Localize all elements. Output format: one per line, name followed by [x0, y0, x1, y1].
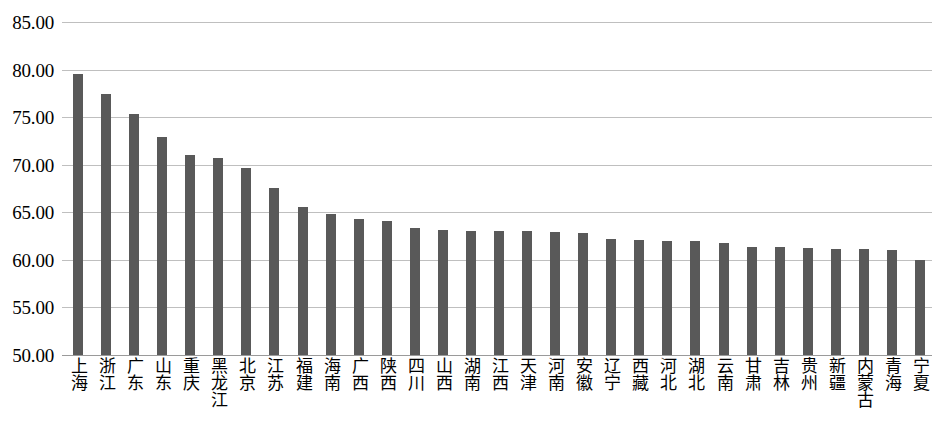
x-axis-tick-label: 宁夏 [907, 357, 933, 395]
x-axis-tick-text: 湖南 [462, 357, 479, 391]
x-axis-tick-label: 青海 [879, 357, 905, 395]
x-axis-tick-text: 陕西 [378, 357, 395, 391]
x-axis-tick-text: 河南 [547, 357, 564, 391]
bar[interactable] [606, 239, 616, 355]
x-axis-tick-text: 西藏 [631, 357, 648, 391]
x-axis-tick-text: 贵州 [799, 357, 816, 391]
x-axis-tick-text: 内蒙古 [855, 357, 872, 408]
x-axis-tick-text: 吉林 [771, 357, 788, 391]
bar[interactable] [831, 249, 841, 355]
x-axis-tick-label: 甘肃 [739, 357, 765, 395]
x-axis-tick-text: 青海 [883, 357, 900, 391]
x-axis-tick-text: 广西 [350, 357, 367, 391]
bar[interactable] [747, 247, 757, 355]
x-axis-tick-label: 海南 [318, 357, 344, 395]
x-axis-tick-label: 西藏 [626, 357, 652, 395]
x-axis-tick-text: 河北 [659, 357, 676, 391]
bar[interactable] [185, 155, 195, 355]
x-axis-tick-text: 重庆 [182, 357, 199, 391]
y-axis: 50.0055.0060.0065.0070.0075.0080.0085.00 [0, 0, 58, 431]
x-axis-tick-text: 海南 [322, 357, 339, 391]
bar[interactable] [494, 231, 504, 355]
x-axis-tick-text: 山西 [434, 357, 451, 391]
x-axis-tick-label: 陕西 [374, 357, 400, 395]
bar[interactable] [803, 248, 813, 356]
x-axis-tick-label: 江苏 [261, 357, 287, 395]
y-axis-tick-label: 65.00 [12, 203, 54, 222]
bars-layer [62, 22, 932, 355]
bar[interactable] [662, 241, 672, 355]
y-axis-tick-label: 70.00 [12, 155, 54, 174]
y-axis-tick-label: 60.00 [12, 250, 54, 269]
x-axis-tick-text: 天津 [519, 357, 536, 391]
x-axis-tick-label: 山东 [149, 357, 175, 395]
x-axis-tick-text: 安徽 [575, 357, 592, 391]
y-axis-tick-label: 50.00 [12, 346, 54, 365]
x-axis-tick-text: 广东 [126, 357, 143, 391]
bar[interactable] [690, 241, 700, 355]
x-axis-tick-label: 上海 [65, 357, 91, 395]
x-axis-tick-text: 甘肃 [743, 357, 760, 391]
bar[interactable] [101, 94, 111, 355]
x-axis: 上海浙江广东山东重庆黑龙江北京江苏福建海南广西陕西四川山西湖南江西天津河南安徽辽… [62, 357, 932, 431]
bar[interactable] [326, 214, 336, 355]
x-axis-tick-text: 四川 [406, 357, 423, 391]
x-axis-tick-label: 江西 [486, 357, 512, 395]
bar[interactable] [466, 231, 476, 355]
x-axis-tick-text: 辽宁 [603, 357, 620, 391]
x-axis-tick-text: 江苏 [266, 357, 283, 391]
axis-baseline [62, 355, 932, 356]
bar[interactable] [550, 232, 560, 355]
x-axis-tick-label: 贵州 [795, 357, 821, 395]
bar[interactable] [241, 168, 251, 355]
y-axis-tick-label: 85.00 [12, 13, 54, 32]
bar[interactable] [213, 158, 223, 355]
bar[interactable] [410, 228, 420, 355]
x-axis-tick-label: 内蒙古 [851, 357, 877, 412]
bar[interactable] [129, 114, 139, 355]
bar[interactable] [578, 233, 588, 355]
bar[interactable] [719, 243, 729, 355]
x-axis-tick-text: 浙江 [98, 357, 115, 391]
x-axis-tick-label: 福建 [290, 357, 316, 395]
x-axis-tick-label: 河南 [542, 357, 568, 395]
bar[interactable] [915, 260, 925, 355]
x-axis-tick-label: 广东 [121, 357, 147, 395]
bar[interactable] [298, 207, 308, 355]
x-axis-tick-label: 安徽 [570, 357, 596, 395]
x-axis-tick-text: 北京 [238, 357, 255, 391]
x-axis-tick-label: 浙江 [93, 357, 119, 395]
x-axis-tick-label: 广西 [346, 357, 372, 395]
x-axis-tick-label: 云南 [711, 357, 737, 395]
bar[interactable] [634, 240, 644, 355]
x-axis-tick-label: 吉林 [767, 357, 793, 395]
x-axis-tick-text: 云南 [715, 357, 732, 391]
x-axis-tick-label: 山西 [430, 357, 456, 395]
x-axis-tick-text: 山东 [154, 357, 171, 391]
x-axis-tick-label: 新疆 [823, 357, 849, 395]
bar[interactable] [157, 137, 167, 355]
bar[interactable] [354, 219, 364, 355]
y-axis-tick-label: 55.00 [12, 298, 54, 317]
bar[interactable] [887, 250, 897, 355]
x-axis-tick-label: 湖南 [458, 357, 484, 395]
x-axis-tick-text: 湖北 [687, 357, 704, 391]
x-axis-tick-label: 北京 [233, 357, 259, 395]
bar[interactable] [269, 188, 279, 355]
bar[interactable] [775, 247, 785, 355]
x-axis-tick-label: 河北 [654, 357, 680, 395]
bar[interactable] [438, 230, 448, 355]
x-axis-tick-label: 四川 [402, 357, 428, 395]
y-axis-tick-label: 75.00 [12, 108, 54, 127]
bar[interactable] [73, 74, 83, 355]
x-axis-tick-text: 新疆 [827, 357, 844, 391]
bar[interactable] [382, 221, 392, 355]
x-axis-tick-text: 上海 [70, 357, 87, 391]
x-axis-tick-text: 福建 [294, 357, 311, 391]
bar[interactable] [859, 249, 869, 355]
x-axis-tick-text: 黑龙江 [210, 357, 227, 408]
x-axis-tick-label: 黑龙江 [205, 357, 231, 412]
x-axis-tick-label: 湖北 [682, 357, 708, 395]
bar[interactable] [522, 231, 532, 355]
x-axis-tick-label: 辽宁 [598, 357, 624, 395]
